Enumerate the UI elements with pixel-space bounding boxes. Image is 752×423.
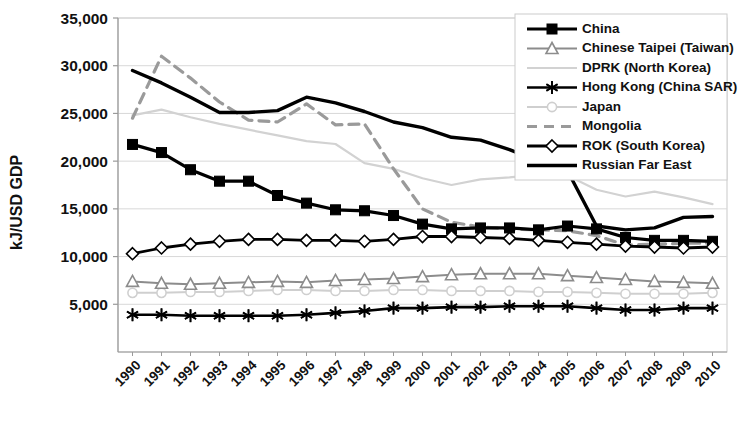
- x-tick-label: 2010: [692, 358, 724, 390]
- marker-square: [273, 190, 283, 200]
- x-tick-label: 1990: [112, 358, 144, 390]
- x-tick-label: 1991: [141, 357, 173, 389]
- legend-label: Russian Far East: [582, 157, 692, 172]
- legend-background: [515, 14, 727, 180]
- marker-diamond: [562, 236, 574, 248]
- x-tick-label: 2002: [460, 358, 492, 390]
- chart-container: 5,00010,00015,00020,00025,00030,00035,00…: [0, 0, 752, 423]
- marker-diamond: [127, 248, 139, 260]
- x-tick-label: 2006: [576, 357, 608, 389]
- marker-diamond: [388, 233, 400, 245]
- marker-diamond: [504, 232, 516, 244]
- marker-square: [302, 198, 312, 208]
- marker-diamond: [359, 235, 371, 247]
- marker-circle: [563, 287, 572, 296]
- marker-square: [360, 206, 370, 216]
- x-tick-label: 2003: [489, 357, 521, 389]
- x-tick-label: 2001: [431, 357, 463, 389]
- legend-label: DPRK (North Korea): [582, 60, 711, 75]
- y-tick-label: 5,000: [69, 296, 108, 313]
- marker-diamond: [156, 242, 168, 254]
- x-tick-label: 1992: [170, 358, 202, 390]
- x-tick-label: 2005: [547, 357, 579, 389]
- x-tick-label: 2009: [663, 358, 695, 390]
- legend-label: ROK (South Korea): [582, 138, 705, 153]
- marker-circle: [547, 102, 556, 111]
- legend-label: Hong Kong (China SAR): [582, 79, 737, 94]
- marker-circle: [447, 286, 456, 295]
- legend-label: China: [582, 21, 620, 36]
- marker-square: [128, 139, 138, 149]
- marker-diamond: [214, 235, 226, 247]
- marker-circle: [418, 285, 427, 294]
- marker-square: [389, 211, 399, 221]
- x-tick-label: 1999: [373, 358, 405, 390]
- x-tick-label: 1995: [257, 357, 289, 389]
- marker-square: [157, 148, 167, 158]
- marker-circle: [476, 286, 485, 295]
- marker-circle: [708, 288, 717, 297]
- marker-circle: [650, 289, 659, 298]
- y-tick-label: 15,000: [61, 200, 108, 217]
- y-tick-label: 30,000: [61, 57, 108, 74]
- legend-label: Japan: [582, 99, 621, 114]
- marker-diamond: [330, 234, 342, 246]
- marker-circle: [534, 287, 543, 296]
- legend-label: Mongolia: [582, 118, 642, 133]
- marker-circle: [621, 289, 630, 298]
- chart-legend: ChinaChinese Taipei (Taiwan)DPRK (North …: [515, 14, 737, 180]
- marker-diamond: [272, 233, 284, 245]
- marker-circle: [331, 286, 340, 295]
- x-tick-label: 2007: [605, 358, 637, 390]
- marker-circle: [128, 288, 137, 297]
- marker-diamond: [533, 234, 545, 246]
- marker-circle: [679, 289, 688, 298]
- marker-square: [547, 24, 557, 34]
- marker-circle: [592, 288, 601, 297]
- x-tick-label: 2000: [402, 358, 434, 390]
- marker-diamond: [591, 238, 603, 250]
- marker-circle: [505, 286, 514, 295]
- x-tick-label: 2004: [518, 357, 550, 389]
- marker-square: [563, 221, 573, 231]
- x-tick-label: 1996: [286, 357, 318, 389]
- marker-circle: [389, 285, 398, 294]
- x-tick-label: 1997: [315, 358, 347, 390]
- series-hong-kong-china-sar: [127, 300, 718, 322]
- y-tick-label: 20,000: [61, 153, 108, 170]
- marker-square: [215, 176, 225, 186]
- y-axis-title: kJ/USD GDP: [8, 155, 25, 250]
- y-tick-label: 35,000: [61, 10, 108, 27]
- legend-label: Chinese Taipei (Taiwan): [582, 40, 734, 55]
- marker-square: [186, 165, 196, 175]
- marker-diamond: [185, 238, 197, 250]
- line-chart: 5,00010,00015,00020,00025,00030,00035,00…: [0, 0, 752, 423]
- y-tick-label: 25,000: [61, 105, 108, 122]
- marker-square: [331, 205, 341, 215]
- x-tick-label: 2008: [634, 357, 666, 389]
- marker-diamond: [243, 233, 255, 245]
- marker-circle: [157, 288, 166, 297]
- marker-square: [244, 176, 254, 186]
- y-tick-label: 10,000: [61, 248, 108, 265]
- x-tick-label: 1994: [228, 357, 260, 389]
- marker-diamond: [301, 234, 313, 246]
- marker-diamond: [417, 231, 429, 243]
- marker-square: [418, 219, 428, 229]
- x-tick-label: 1993: [199, 357, 231, 389]
- marker-circle: [360, 286, 369, 295]
- x-tick-label: 1998: [344, 357, 376, 389]
